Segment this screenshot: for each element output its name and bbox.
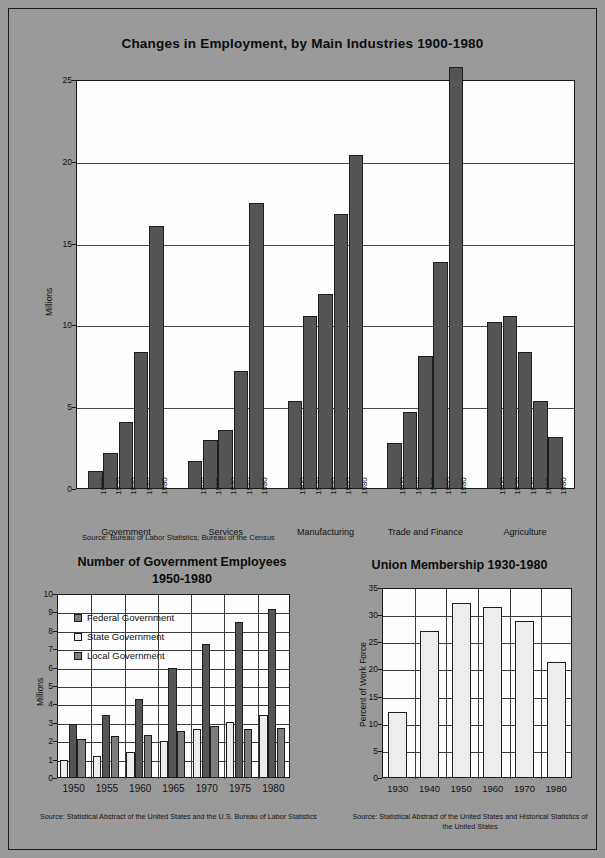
bar — [126, 752, 134, 778]
gov-y-tick-label: 9 — [33, 608, 53, 617]
gov-y-tick-mark — [53, 760, 57, 761]
gov-y-tick-mark — [53, 686, 57, 687]
gov-y-tick-mark — [53, 723, 57, 724]
union-y-tick-mark — [378, 724, 382, 725]
union-group-separator — [510, 589, 511, 779]
union-gridline — [383, 698, 571, 699]
gov-y-tick-label: 7 — [33, 645, 53, 654]
gov-y-tick-label: 0 — [33, 774, 53, 783]
bar — [249, 203, 264, 489]
union-gridline — [383, 725, 571, 726]
union-y-tick-mark — [378, 778, 382, 779]
union-y-tick-mark — [378, 669, 382, 670]
bar — [449, 67, 464, 489]
union-y-tick-label: 10 — [356, 720, 378, 729]
main-y-tick-label: 10 — [46, 321, 72, 330]
gov-y-tick-label: 10 — [33, 590, 53, 599]
main-y-tick-mark — [72, 407, 76, 408]
bar — [288, 401, 303, 489]
main-y-tick-mark — [72, 80, 76, 81]
gov-y-tick-label: 3 — [33, 719, 53, 728]
main-y-axis-label: Millions — [44, 288, 54, 316]
bar — [259, 715, 267, 778]
bar — [193, 729, 201, 778]
union-y-tick-mark — [378, 642, 382, 643]
union-group-separator — [446, 589, 447, 779]
bar — [483, 607, 502, 778]
legend-item: Federal Government — [74, 612, 174, 623]
bar — [149, 226, 164, 489]
x-axis-year-label: 1980 — [459, 477, 468, 495]
bar — [235, 622, 243, 778]
main-y-tick-mark — [72, 244, 76, 245]
bar — [111, 736, 119, 778]
bar — [420, 631, 439, 778]
gov-y-tick-mark — [53, 778, 57, 779]
union-y-tick-label: 30 — [356, 611, 378, 620]
bar — [303, 316, 318, 489]
union-y-tick-label: 20 — [356, 665, 378, 674]
bar — [160, 741, 168, 778]
gov-x-axis-year-label: 1955 — [90, 783, 123, 794]
gov-employees-title-line2: 1950-1980 — [22, 572, 342, 586]
union-x-axis-year-label: 1970 — [509, 783, 541, 794]
bar — [318, 294, 333, 489]
bar — [452, 603, 471, 778]
bar — [60, 760, 68, 778]
bar — [135, 699, 143, 778]
main-y-tick-label: 5 — [46, 403, 72, 412]
bar — [547, 662, 566, 778]
union-gridline — [383, 616, 571, 617]
union-gridline — [383, 670, 571, 671]
main-chart-title: Changes in Employment, by Main Industrie… — [0, 36, 605, 51]
main-y-tick-mark — [72, 325, 76, 326]
gov-x-axis-year-label: 1965 — [157, 783, 190, 794]
bar — [487, 322, 502, 489]
main-y-tick-mark — [72, 162, 76, 163]
gov-x-axis-year-label: 1960 — [124, 783, 157, 794]
union-y-tick-mark — [378, 588, 382, 589]
legend-label: State Government — [87, 631, 164, 642]
union-y-tick-label: 25 — [356, 638, 378, 647]
union-gridline — [383, 752, 571, 753]
gov-y-tick-label: 8 — [33, 627, 53, 636]
gov-y-tick-mark — [53, 668, 57, 669]
x-axis-year-label: 1980 — [360, 477, 369, 495]
gov-x-axis-year-label: 1950 — [57, 783, 90, 794]
legend-swatch — [74, 633, 82, 641]
bar — [69, 724, 77, 778]
union-group-separator — [541, 589, 542, 779]
union-y-tick-mark — [378, 615, 382, 616]
bar — [388, 712, 407, 778]
x-axis-group-label: Agriculture — [475, 527, 575, 537]
gov-y-tick-mark — [53, 612, 57, 613]
legend-swatch — [74, 652, 82, 660]
union-membership-title: Union Membership 1930-1980 — [332, 558, 587, 572]
gov-y-tick-mark — [53, 631, 57, 632]
gov-employees-source: Source: Statistical Abstract of the Unit… — [40, 812, 317, 822]
union-x-axis-year-label: 1940 — [414, 783, 446, 794]
main-y-tick-label: 15 — [46, 240, 72, 249]
union-membership-source: Source: Statistical Abstract of the Unit… — [350, 812, 590, 831]
union-x-axis-year-label: 1960 — [477, 783, 509, 794]
gov-employees-title-line1: Number of Government Employees — [22, 555, 342, 569]
bar — [244, 729, 252, 778]
union-gridline — [383, 643, 571, 644]
bar — [93, 756, 101, 778]
x-axis-year-label: 1980 — [559, 477, 568, 495]
legend-swatch — [74, 614, 82, 622]
bar — [134, 352, 149, 489]
bar — [210, 726, 218, 778]
bar — [418, 356, 433, 489]
legend-item: State Government — [74, 631, 164, 642]
main-y-tick-label: 0 — [46, 485, 72, 494]
gov-y-tick-label: 4 — [33, 700, 53, 709]
main-gridline — [77, 163, 574, 164]
gov-y-tick-mark — [53, 704, 57, 705]
union-y-tick-label: 15 — [356, 693, 378, 702]
union-y-tick-label: 5 — [356, 747, 378, 756]
bar — [268, 609, 276, 778]
bar — [226, 722, 234, 778]
union-y-tick-label: 0 — [356, 774, 378, 783]
union-membership-plot-area — [382, 588, 572, 778]
